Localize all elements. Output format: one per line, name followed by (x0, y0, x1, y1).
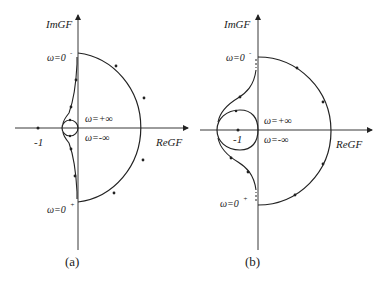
omega-zero-minus-sup-b: - (249, 49, 252, 57)
omega-zero-minus-label-b: ω=0 (226, 52, 245, 63)
imag-axis-label-b: ImGF (223, 18, 251, 30)
nyquist-inner-upper-a (63, 57, 77, 124)
critical-point-a (37, 127, 40, 130)
panel-a: ImGF ReGF -1 ω=0 - ω=0 + ω=+∞ ω=-∞ (a) (15, 15, 188, 269)
nyquist-arc-a (78, 53, 141, 202)
caption-a: (a) (65, 254, 79, 269)
caption-b: (b) (245, 254, 260, 269)
real-axis-label-b: ReGF (335, 138, 363, 150)
imag-axis-label-a: ImGF (45, 18, 73, 30)
omega-neg-inf-label-b: ω=-∞ (264, 134, 288, 145)
panel-b: ImGF ReGF -1 ω=0 - ω=0 + ω=+∞ ω=-∞ (b) (200, 15, 372, 269)
nyquist-inner-lower-a (63, 132, 77, 199)
real-axis-label-a: ReGF (155, 136, 183, 148)
critical-point-label-b: -1 (233, 133, 242, 145)
omega-zero-minus-sup-a: - (70, 49, 73, 57)
omega-zero-plus-sup-b: + (243, 195, 248, 203)
omega-zero-plus-sup-a: + (70, 201, 75, 209)
omega-zero-plus-label-b: ω=0 (220, 198, 239, 209)
omega-neg-inf-label-a: ω=-∞ (85, 132, 109, 143)
critical-point-label-a: -1 (34, 136, 43, 148)
omega-pos-inf-label-b: ω=+∞ (264, 115, 292, 126)
omega-zero-plus-label-a: ω=0 (47, 204, 66, 215)
omega-zero-minus-label-a: ω=0 (47, 52, 66, 63)
nyquist-inner-lower-b (218, 138, 256, 190)
omega-pos-inf-label-a: ω=+∞ (85, 113, 113, 124)
critical-point-b (237, 129, 240, 132)
nyquist-arc-b (258, 57, 331, 205)
nyquist-figure: ImGF ReGF -1 ω=0 - ω=0 + ω=+∞ ω=-∞ (a) (0, 0, 380, 281)
nyquist-inner-upper-b (218, 70, 256, 122)
